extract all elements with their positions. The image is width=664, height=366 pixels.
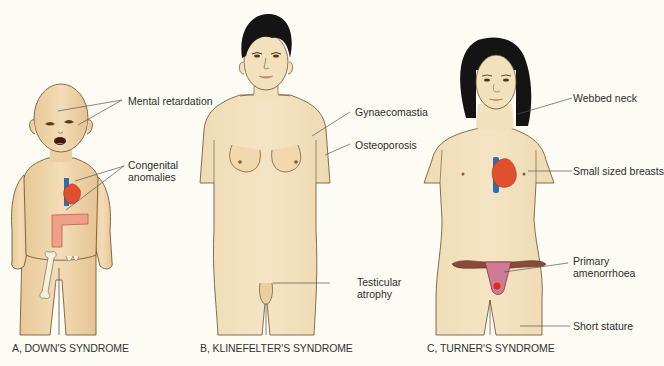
female-body bbox=[424, 128, 554, 335]
annotation-osteoporosis: Osteoporosis bbox=[355, 139, 417, 151]
figure-turner-female bbox=[424, 37, 572, 335]
annotation-webbed-neck: Webbed neck bbox=[573, 92, 637, 104]
heart-icon bbox=[492, 159, 516, 187]
caption-klinefelter-syndrome: B, KLINEFELTER'S SYNDROME bbox=[200, 342, 353, 354]
annotation-mental-retardation: Mental retardation bbox=[128, 95, 213, 107]
annotation-small-sized-breasts: Small sized breasts bbox=[573, 165, 664, 177]
caption-turner-syndrome: C, TURNER'S SYNDROME bbox=[427, 342, 555, 354]
testes-icon bbox=[259, 283, 272, 304]
female-head bbox=[476, 55, 516, 109]
figure-klinefelter-male bbox=[200, 14, 350, 335]
annotation-testicular-atrophy: Testicular atrophy bbox=[357, 276, 401, 300]
annotation-short-stature: Short stature bbox=[573, 320, 633, 332]
caption-down-syndrome: A, DOWN'S SYNDROME bbox=[12, 342, 129, 354]
annotation-congenital-anomalies: Congenital anomalies bbox=[128, 159, 178, 183]
annotation-primary-amenorrhoea: Primary amenorrhoea bbox=[573, 255, 635, 279]
child-legs bbox=[20, 250, 96, 335]
figure-down-syndrome-child bbox=[12, 84, 125, 335]
annotation-gynaecomastia: Gynaecomastia bbox=[355, 106, 428, 118]
